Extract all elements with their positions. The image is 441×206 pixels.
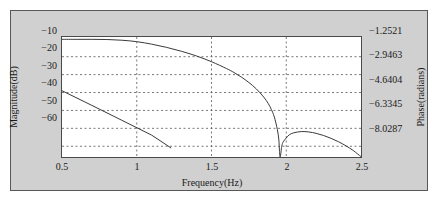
y-right-tick-0: −1.2521 bbox=[369, 26, 402, 36]
phase-curve bbox=[62, 91, 171, 148]
y-left-tick-0: −10 bbox=[27, 26, 57, 36]
plot-canvas bbox=[62, 37, 361, 157]
x-tick-2: 1.5 bbox=[206, 162, 219, 172]
y-left-tick-2: −30 bbox=[27, 61, 57, 71]
plot-area bbox=[61, 36, 362, 158]
y-left-tick-4: −50 bbox=[27, 96, 57, 106]
y-right-tick-4: −8.0287 bbox=[369, 124, 402, 134]
y-left-tick-3: −40 bbox=[27, 78, 57, 88]
y-left-tick-5: −60 bbox=[27, 113, 57, 123]
x-tick-0: 0.5 bbox=[56, 162, 69, 172]
y-right-tick-2: −4.6404 bbox=[369, 75, 402, 85]
figure-screenshot: −10 −20 −30 −40 −50 −60 −1.2521 −2.9463 … bbox=[0, 0, 441, 206]
y-axis-title-right: Phase(radians) bbox=[416, 68, 426, 127]
x-tick-3: 2 bbox=[285, 162, 290, 172]
y-axis-title-left: Magnitude(dB) bbox=[9, 66, 19, 128]
x-axis-title: Frequency(Hz) bbox=[182, 178, 243, 188]
y-right-tick-3: −6.3345 bbox=[369, 99, 402, 109]
x-tick-4: 2.5 bbox=[356, 162, 369, 172]
y-right-tick-1: −2.9463 bbox=[369, 50, 402, 60]
y-left-tick-1: −20 bbox=[27, 43, 57, 53]
x-tick-1: 1 bbox=[135, 162, 140, 172]
